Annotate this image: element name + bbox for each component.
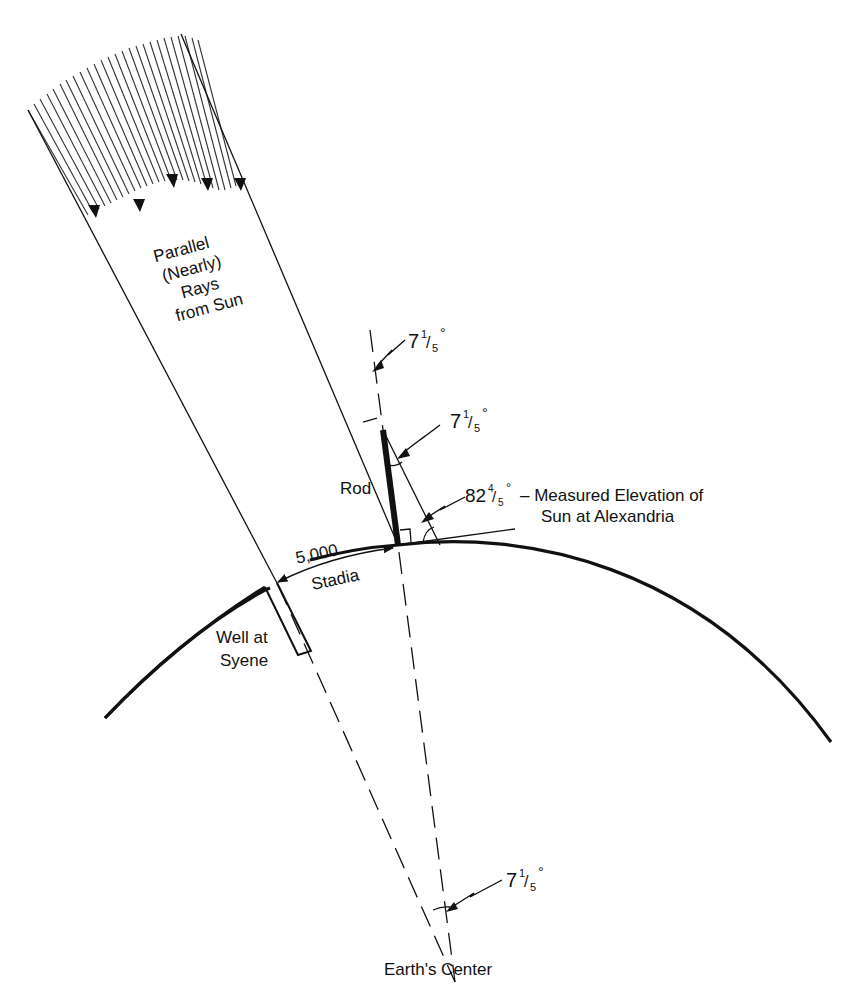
svg-text:°: ° xyxy=(506,480,511,495)
svg-text:5: 5 xyxy=(530,881,536,893)
angle-label-rod: 7 1 / 5 ° xyxy=(450,405,488,434)
svg-text:°: ° xyxy=(482,405,488,421)
center-angle-tick xyxy=(433,907,450,910)
right-angle-mark xyxy=(400,529,411,542)
earth-surface-arc xyxy=(105,542,831,742)
svg-text:5: 5 xyxy=(498,497,504,508)
svg-text:/: / xyxy=(524,873,529,890)
angle-label-elevation: 82 4 / 5 ° xyxy=(465,480,511,508)
elevation-desc-line-1: – Measured Elevation of xyxy=(520,486,704,505)
svg-text:°: ° xyxy=(538,864,544,880)
sun-rays-label: Parallel (Nearly) Rays from Sun xyxy=(151,228,245,327)
angle-label-top: 7 1 / 5 ° xyxy=(408,325,446,354)
svg-text:/: / xyxy=(426,334,431,351)
sun-rays-hatching xyxy=(28,36,236,215)
earth-center-label: Earth's Center xyxy=(384,960,492,979)
well-label-line-2: Syene xyxy=(220,651,268,670)
well-axis-dashed xyxy=(278,585,455,982)
svg-text:5: 5 xyxy=(474,422,480,434)
top-angle-tick xyxy=(363,418,377,422)
diagram-canvas: Parallel (Nearly) Rays from Sun Rod 5,00… xyxy=(0,0,866,1004)
distance-value: 5,000 xyxy=(294,540,340,567)
svg-text:°: ° xyxy=(440,325,446,341)
svg-text:7: 7 xyxy=(506,869,517,891)
svg-text:7: 7 xyxy=(450,410,461,432)
svg-text:5: 5 xyxy=(432,342,438,354)
elevation-desc-line-2: Sun at Alexandria xyxy=(541,507,675,526)
svg-text:/: / xyxy=(468,414,473,431)
rod-label: Rod xyxy=(340,479,371,498)
angle-label-center: 7 1 / 5 ° xyxy=(506,864,544,893)
eratosthenes-diagram: Parallel (Nearly) Rays from Sun Rod 5,00… xyxy=(0,0,866,1004)
angle-leaders xyxy=(378,340,502,907)
distance-label: 5,000 Stadia xyxy=(294,537,361,596)
svg-text:7: 7 xyxy=(408,330,419,352)
svg-text:/: / xyxy=(492,488,497,505)
well-label-line-1: Well at xyxy=(216,628,268,647)
svg-text:82: 82 xyxy=(465,485,486,506)
distance-unit: Stadia xyxy=(310,565,362,594)
alexandria-vertical-dashed xyxy=(370,330,455,982)
